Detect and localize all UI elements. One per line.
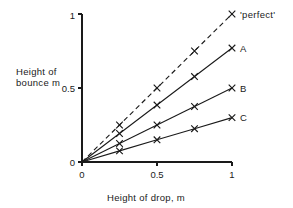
data-point-marker [191, 103, 198, 110]
series-group [82, 11, 235, 162]
series-label-a: A [240, 43, 247, 54]
data-point-marker [116, 140, 123, 147]
data-point-marker [229, 11, 236, 18]
x-tick-label-1: 0.5 [150, 169, 163, 180]
data-point-marker [229, 45, 236, 52]
data-point-marker [154, 102, 161, 109]
x-axis-title: Height of drop, m [107, 192, 185, 203]
y-tick-label-0: 0 [70, 157, 75, 168]
data-point-marker [116, 122, 123, 129]
chart-canvas: 0 0.5 1 0 0.5 1 Height of drop, m Height… [0, 0, 293, 208]
data-point-marker [154, 85, 161, 92]
data-point-marker [116, 148, 123, 155]
data-point-marker [154, 122, 161, 129]
data-point-marker [191, 73, 198, 80]
x-tick-label-0: 0 [79, 169, 84, 180]
y-axis-title-line1: Height of [16, 66, 57, 77]
y-tick-label-1: 0.5 [62, 83, 75, 94]
x-tick-label-2: 1 [229, 169, 234, 180]
bounce-height-chart: 0 0.5 1 0 0.5 1 Height of drop, m Height… [0, 0, 293, 208]
series-label-perfect: 'perfect' [240, 9, 275, 20]
y-tick-label-2: 1 [70, 10, 75, 21]
series-label-b: B [240, 83, 247, 94]
data-point-marker [229, 85, 236, 92]
data-point-marker [191, 125, 198, 132]
y-axis-title-line2: bounce m [16, 77, 60, 88]
data-point-marker [154, 137, 161, 144]
series-label-c: C [240, 112, 247, 123]
data-point-marker [116, 130, 123, 137]
data-point-marker [191, 48, 198, 55]
data-point-marker [229, 114, 236, 121]
